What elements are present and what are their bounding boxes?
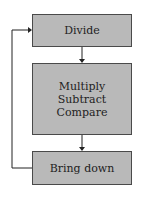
step-label: Multiply: [59, 80, 106, 93]
step-bring-down: Bring down: [32, 151, 132, 185]
step-label: Subtract: [58, 93, 106, 106]
step-label: Compare: [57, 106, 108, 119]
step-divide: Divide: [32, 14, 132, 47]
step-label: Divide: [64, 24, 100, 37]
step-label: Bring down: [50, 162, 115, 175]
loop-arrow: [12, 30, 32, 168]
step-multiply-subtract-compare: Multiply Subtract Compare: [32, 63, 132, 135]
